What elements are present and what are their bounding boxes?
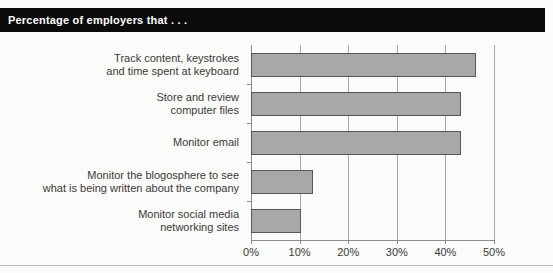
x-axis-tick [445,240,446,244]
x-axis-tick-label: 20% [337,246,359,258]
category-label: Monitor email [0,136,239,149]
gridline [494,45,495,240]
category-label: Store and review computer files [0,91,239,117]
x-axis-tick [348,240,349,244]
x-axis-line [251,240,495,241]
y-axis-tick [247,162,251,163]
bar [251,131,461,155]
y-axis-tick [247,84,251,85]
x-axis-tick-label: 30% [386,246,408,258]
bar [251,53,476,77]
title-banner: Percentage of employers that . . . [0,8,545,32]
bar [251,92,461,116]
x-axis-tick [300,240,301,244]
bar [251,209,301,233]
x-axis-tick [494,240,495,244]
x-axis-tick-label: 10% [289,246,311,258]
category-label: Monitor social media networking sites [0,208,239,234]
x-axis-tick-label: 0% [243,246,259,258]
category-label-column: Track content, keystrokes and time spent… [0,45,245,240]
category-label: Track content, keystrokes and time spent… [0,52,239,78]
category-label: Monitor the blogosphere to see what is b… [0,169,239,195]
y-axis-tick [247,201,251,202]
x-axis-tick [397,240,398,244]
bar-chart: Track content, keystrokes and time spent… [0,32,553,273]
bar [251,170,313,194]
x-axis-tick-label: 40% [434,246,456,258]
x-axis-tick [251,240,252,244]
x-axis-tick-label: 50% [483,246,505,258]
y-axis-tick [247,123,251,124]
plot-area: 0%10%20%30%40%50% [251,45,494,240]
page-title: Percentage of employers that . . . [8,14,187,26]
bottom-divider [0,265,553,266]
